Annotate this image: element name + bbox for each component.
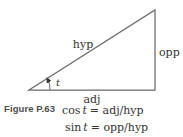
cos-equation: cost= adj/hyp [62,104,144,117]
hyp-label: hyp [73,38,93,51]
sin-ratio: = opp/hyp [91,121,148,134]
cos-angle-variable: t [82,104,86,117]
angle-arc-arrow-icon [47,79,50,90]
sin-function: sin [65,121,81,134]
cos-ratio: = adj/hyp [90,104,144,117]
figure-p63: hyp opp adj t Figure P.63 cost= adj/hyp … [0,0,183,137]
opp-label: opp [159,46,180,59]
cos-function: cos [62,104,80,117]
angle-label: t [56,77,61,88]
sin-angle-variable: t [83,121,87,134]
sin-equation: sint= opp/hyp [65,121,148,134]
figure-caption: Figure P.63 [4,103,55,114]
